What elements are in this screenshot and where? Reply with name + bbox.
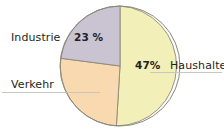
slice-label-verkehr: Verkehr [11,79,54,91]
pie-chart: Industrie 23 % Verkehr Haushalte 47% [0,0,224,132]
slice-value-haushalte: 47% [135,60,160,71]
slice-label-haushalte: Haushalte [170,60,224,72]
slice-label-industrie: Industrie [11,32,60,44]
slice-value-industrie: 23 % [74,32,103,43]
